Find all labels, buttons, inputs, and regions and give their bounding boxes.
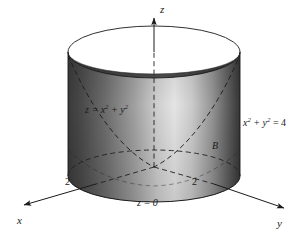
z-axis-label: z — [160, 4, 164, 15]
paraboloid-equation-label: z = x2 + y2 — [85, 105, 128, 115]
paraboloid-eq-exp2: 2 — [125, 103, 128, 110]
paraboloid-eq-mid: + y — [108, 104, 124, 115]
x-axis-label: x — [17, 215, 22, 226]
paraboloid-eq-base: z = x — [85, 104, 105, 115]
x-axis — [24, 184, 96, 205]
y-axis-tick-2: 2 — [192, 177, 197, 187]
cylinder-eq-tail: = 4 — [270, 117, 286, 128]
cylinder-equation-label: x2 + y2 = 4 — [243, 118, 286, 128]
y-axis — [214, 184, 284, 208]
y-axis-label: y — [277, 218, 282, 229]
cylinder-eq-mid: + y — [251, 117, 267, 128]
x-axis-tick-2: 2 — [65, 177, 70, 187]
plane-z0-label: z = 0 — [137, 198, 158, 208]
math-figure-3d-solid: z x y z = x2 + y2 x2 + y2 = 4 B z = 0 2 … — [0, 0, 306, 240]
region-b-label: B — [212, 141, 218, 151]
